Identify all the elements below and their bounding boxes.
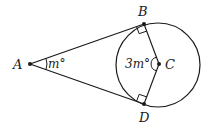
angle-label-C: 3m° (125, 57, 150, 71)
point-A (28, 62, 32, 66)
geometry-diagram: A B C D m° 3m° (0, 0, 209, 128)
point-B (142, 22, 146, 26)
label-B: B (137, 4, 148, 19)
label-A: A (12, 57, 22, 72)
angle-arc-A (46, 58, 47, 69)
angle-arc-C (151, 57, 156, 71)
label-C: C (165, 57, 175, 72)
angle-label-A: m° (48, 57, 65, 71)
point-D (142, 102, 146, 106)
label-D: D (138, 110, 150, 125)
point-C (157, 62, 161, 66)
